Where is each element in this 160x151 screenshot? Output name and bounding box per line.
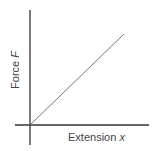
y-axis-label-text: Force (9, 61, 21, 89)
x-axis-label-text: Extension (68, 131, 116, 143)
x-axis-label: Extension x (68, 131, 125, 143)
y-axis-label-variable: F (9, 51, 21, 58)
data-line (30, 34, 124, 125)
x-axis-label-variable: x (119, 131, 125, 143)
force-extension-chart (0, 0, 160, 151)
y-axis-label: Force F (9, 51, 21, 89)
